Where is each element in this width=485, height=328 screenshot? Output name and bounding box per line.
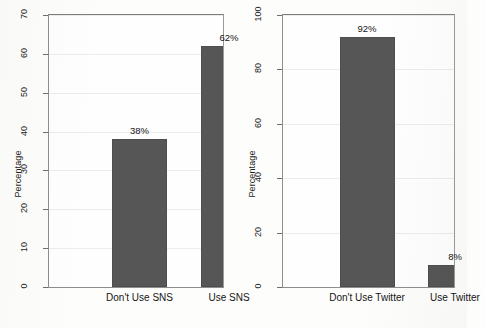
plot-area-twitter [282, 14, 455, 288]
y-axis-tick-label: 60 [19, 38, 29, 68]
y-axis-tick-label: 0 [19, 271, 29, 301]
gridline [49, 54, 223, 55]
bar [112, 139, 167, 287]
y-axis-tick-mark [277, 15, 282, 16]
gridline [49, 93, 223, 94]
y-axis-tick-label: 80 [253, 53, 263, 83]
y-axis-tick-mark [43, 54, 48, 55]
chart-panel-twitter: Percentage 02040608010092%Don't Use Twit… [233, 0, 467, 328]
y-axis-tick-mark [43, 15, 48, 16]
y-axis-tick-label: 100 [253, 0, 263, 29]
y-axis-tick-mark [277, 178, 282, 179]
bar [428, 265, 456, 287]
y-axis-tick-label: 60 [253, 108, 263, 138]
y-axis-tick-label: 50 [19, 77, 29, 107]
y-axis-tick-label: 30 [19, 154, 29, 184]
y-axis-tick-mark [277, 124, 282, 125]
bar-value-label: 38% [110, 125, 170, 136]
y-axis-tick-mark [43, 132, 48, 133]
y-axis-tick-mark [277, 69, 282, 70]
bar [340, 37, 395, 287]
gridline [49, 15, 223, 16]
y-axis-tick-mark [43, 287, 48, 288]
y-axis-tick-mark [43, 93, 48, 94]
chart-panel-sns: Percentage 01020304050607038%Don't Use S… [0, 0, 233, 328]
bar-value-label: 8% [425, 251, 485, 262]
y-axis-tick-label: 0 [253, 271, 263, 301]
gridline [283, 15, 454, 16]
y-axis-tick-mark [277, 287, 282, 288]
x-axis-category-label: Use Twitter [395, 292, 485, 303]
y-axis-tick-mark [277, 233, 282, 234]
y-axis-tick-mark [43, 248, 48, 249]
y-axis-tick-label: 10 [19, 232, 29, 262]
y-axis-tick-mark [43, 170, 48, 171]
y-axis-tick-label: 20 [19, 193, 29, 223]
bar-value-label: 92% [337, 23, 397, 34]
y-axis-tick-label: 20 [253, 217, 263, 247]
bar [201, 46, 224, 287]
y-axis-tick-label: 40 [19, 116, 29, 146]
y-axis-tick-mark [43, 209, 48, 210]
plot-area-sns [48, 14, 224, 288]
y-axis-tick-label: 70 [19, 0, 29, 29]
y-axis-tick-label: 40 [253, 162, 263, 192]
